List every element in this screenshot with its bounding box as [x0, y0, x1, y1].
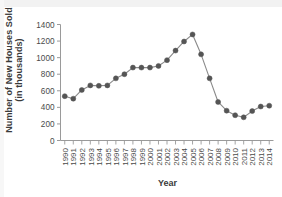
data-point	[199, 52, 204, 57]
data-point	[182, 39, 187, 44]
y-tick-label: 200	[41, 120, 55, 129]
data-point	[139, 65, 144, 70]
data-point	[71, 96, 76, 101]
data-point	[96, 83, 101, 88]
data-point	[62, 94, 67, 99]
y-tick-label: 1200	[36, 37, 55, 46]
data-point	[88, 83, 93, 88]
data-point	[79, 87, 84, 92]
data-point	[165, 58, 170, 63]
data-point	[224, 108, 229, 113]
data-point	[216, 99, 221, 104]
y-tick-label: 1000	[36, 54, 55, 63]
data-point	[250, 109, 255, 114]
y-tick-label: 0	[50, 137, 55, 146]
data-point	[241, 115, 246, 120]
data-point	[190, 32, 195, 37]
data-point	[147, 65, 152, 70]
data-point	[113, 76, 118, 81]
data-point	[207, 76, 212, 81]
data-series-houses-sold	[62, 32, 271, 120]
y-tick-label: 1400	[36, 21, 55, 30]
data-point	[258, 104, 263, 109]
data-point	[233, 113, 238, 118]
data-point	[156, 63, 161, 68]
data-point	[122, 72, 127, 77]
y-tick-label: 600	[41, 87, 55, 96]
line-chart-plot: 0200400600800100012001400 19901991199219…	[0, 0, 282, 197]
chart-figure: Number of New Houses Sold (in thousands)…	[0, 0, 282, 197]
data-point	[130, 65, 135, 70]
data-point	[105, 83, 110, 88]
data-point	[173, 48, 178, 53]
x-tick-label: 2014	[265, 147, 274, 165]
y-tick-label: 800	[41, 70, 55, 79]
x-axis: 1990199119921993199419951996199719981999…	[61, 141, 275, 166]
data-point	[267, 103, 272, 108]
y-axis: 0200400600800100012001400	[36, 21, 60, 146]
y-tick-label: 400	[41, 103, 55, 112]
